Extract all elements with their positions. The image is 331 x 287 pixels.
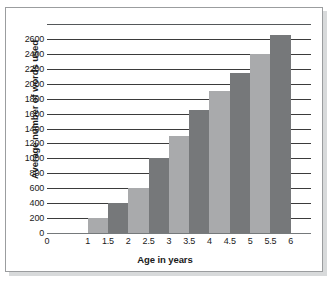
x-tick-label: 2: [126, 236, 131, 246]
x-tick-label: 4: [207, 236, 212, 246]
x-axis-line: [47, 233, 311, 234]
x-tick-label: 5: [248, 236, 253, 246]
y-tick-label: 1600: [25, 109, 44, 119]
bar: [270, 35, 290, 233]
y-tick-label: 800: [30, 168, 44, 178]
bar: [88, 218, 108, 233]
bar: [108, 203, 128, 233]
bar: [209, 91, 229, 233]
y-tick-label: 2400: [25, 49, 44, 59]
x-tick-label: 1: [85, 236, 90, 246]
y-tick-label: 200: [30, 213, 44, 223]
bar: [169, 136, 189, 233]
x-tick-label: 3.5: [183, 236, 195, 246]
x-tick-label: 0: [45, 236, 50, 246]
bar: [250, 54, 270, 233]
x-tick-label: 5.5: [264, 236, 276, 246]
y-tick-label: 600: [30, 183, 44, 193]
y-tick-label: 1000: [25, 153, 44, 163]
y-tick-label: 2200: [25, 64, 44, 74]
y-tick-label: 400: [30, 198, 44, 208]
bar: [149, 158, 169, 233]
chart-frame: Average number of words used 26002400220…: [5, 7, 323, 272]
x-tick-label: 2.5: [143, 236, 155, 246]
chart-figure: Average number of words used 26002400220…: [0, 0, 331, 287]
y-tick-label: 0: [39, 228, 44, 238]
bar: [230, 73, 250, 233]
x-tick-label: 4.5: [224, 236, 236, 246]
y-tick-label: 2000: [25, 79, 44, 89]
bar: [128, 188, 148, 233]
bar: [189, 110, 209, 233]
x-tick-label: 1.5: [102, 236, 114, 246]
x-axis-title: Age in years: [6, 254, 324, 265]
x-tick-label: 3: [166, 236, 171, 246]
y-tick-label: 1200: [25, 138, 44, 148]
bars-group: [47, 24, 311, 233]
y-tick-label: 1400: [25, 124, 44, 134]
y-tick-label: 1800: [25, 94, 44, 104]
plot-area: 2600240022002000180016001400120010008006…: [47, 24, 311, 233]
x-tick-label: 6: [288, 236, 293, 246]
y-tick-label: 2600: [25, 34, 44, 44]
